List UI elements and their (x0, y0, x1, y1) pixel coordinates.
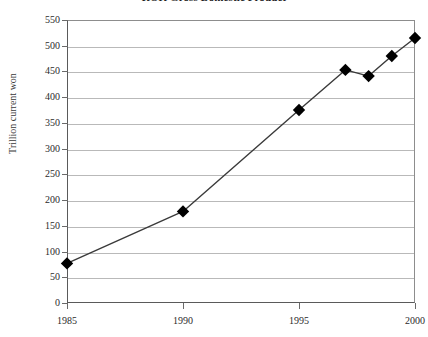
gridline (68, 47, 414, 48)
gridline (68, 124, 414, 125)
y-tick-label: 200 (20, 195, 60, 205)
y-tick-mark (62, 174, 68, 175)
y-tick-label: 450 (20, 66, 60, 76)
x-tick-label: 1995 (269, 316, 329, 326)
y-tick-label: 0 (20, 298, 60, 308)
gridline (68, 278, 414, 279)
y-tick-mark (62, 20, 68, 21)
y-tick-label: 350 (20, 118, 60, 128)
gridline (68, 227, 414, 228)
y-tick-mark (62, 97, 68, 98)
y-tick-label: 100 (20, 247, 60, 257)
y-tick-mark (62, 252, 68, 253)
gdp-line-chart: ROK Gross Domestic Product Trillion curr… (0, 0, 428, 337)
x-tick-label: 1985 (37, 316, 97, 326)
y-tick-label: 150 (20, 221, 60, 231)
gridline (68, 253, 414, 254)
y-tick-label: 500 (20, 41, 60, 51)
gridline (68, 150, 414, 151)
x-tick-label: 2000 (385, 316, 428, 326)
chart-title: ROK Gross Domestic Product (0, 0, 428, 3)
y-tick-label: 300 (20, 144, 60, 154)
gridline (68, 98, 414, 99)
x-tick-mark (299, 303, 300, 309)
y-tick-label: 550 (20, 15, 60, 25)
x-tick-mark (183, 303, 184, 309)
plot-area (67, 20, 415, 303)
y-tick-label: 250 (20, 169, 60, 179)
y-tick-mark (62, 46, 68, 47)
gridline (68, 201, 414, 202)
y-tick-mark (62, 226, 68, 227)
y-tick-label: 400 (20, 92, 60, 102)
x-tick-mark (67, 303, 68, 309)
gridline (68, 72, 414, 73)
x-tick-label: 1990 (153, 316, 213, 326)
y-tick-mark (62, 71, 68, 72)
y-tick-mark (62, 149, 68, 150)
gridline (68, 175, 414, 176)
y-tick-mark (62, 277, 68, 278)
y-tick-mark (62, 123, 68, 124)
x-tick-mark (415, 303, 416, 309)
y-axis-label: Trillion current won (7, 54, 18, 174)
y-tick-mark (62, 200, 68, 201)
y-tick-label: 50 (20, 272, 60, 282)
